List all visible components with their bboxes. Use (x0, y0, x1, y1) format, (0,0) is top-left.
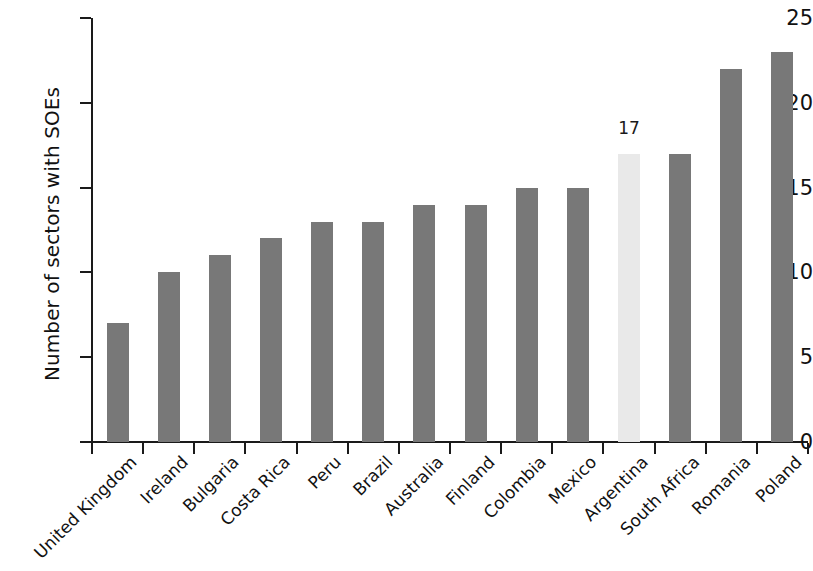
x-tick-mark (602, 443, 604, 454)
x-tick-mark (193, 443, 195, 454)
x-tick-mark (500, 443, 502, 454)
y-axis-line (91, 18, 93, 443)
x-tick-mark (347, 443, 349, 454)
x-tick-mark (551, 443, 553, 454)
bar-value-label: 17 (618, 118, 640, 138)
y-tick-mark (80, 356, 91, 358)
bar-argentina (618, 154, 640, 442)
x-axis-label: Poland (751, 452, 805, 506)
bar-peru (311, 222, 333, 442)
bar-bulgaria (209, 255, 231, 442)
bar-chart: Number of sectors with SOEs 0510152025 1… (0, 0, 813, 571)
x-tick-mark (654, 443, 656, 454)
x-tick-mark (807, 443, 809, 454)
x-tick-mark (244, 443, 246, 454)
x-tick-mark (142, 443, 144, 454)
x-tick-mark (756, 443, 758, 454)
x-tick-mark (398, 443, 400, 454)
x-tick-mark (705, 443, 707, 454)
bar-australia (413, 205, 435, 442)
bar-ireland (158, 272, 180, 442)
x-axis-label: Brazil (349, 452, 397, 500)
y-axis-title: Number of sectors with SOEs (40, 24, 64, 444)
bar-poland (771, 52, 793, 442)
bar-south-africa (669, 154, 691, 442)
bar-brazil (362, 222, 384, 442)
bar-romania (720, 69, 742, 442)
x-axis-label: Peru (304, 452, 345, 493)
x-axis-label: United Kingdom (30, 452, 141, 563)
x-tick-mark (91, 443, 93, 454)
y-tick-mark (80, 102, 91, 104)
y-tick-mark (80, 17, 91, 19)
bar-colombia (516, 188, 538, 442)
y-tick-label: 25 (739, 6, 813, 30)
y-tick-mark (80, 187, 91, 189)
x-tick-mark (296, 443, 298, 454)
bar-united-kingdom (107, 323, 129, 442)
y-tick-mark (80, 271, 91, 273)
bar-mexico (567, 188, 589, 442)
bar-costa-rica (260, 238, 282, 442)
y-tick-mark (80, 441, 91, 443)
x-tick-mark (449, 443, 451, 454)
bar-finland (465, 205, 487, 442)
